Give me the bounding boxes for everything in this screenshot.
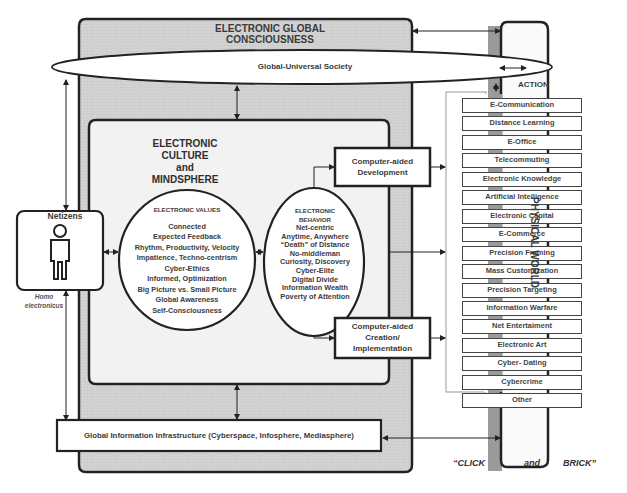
action-item: Cybercrime xyxy=(462,375,582,390)
action-item: Artificial Intelligence xyxy=(462,190,582,205)
values-item: Cyber-Ethics xyxy=(122,264,252,275)
culture-title-line3: and xyxy=(135,162,235,174)
action-item: E-Communication xyxy=(462,98,582,113)
culture-title: ELECTRONIC CULTURE and MINDSPHERE xyxy=(135,138,235,186)
cad-development-line2: Development xyxy=(335,167,430,178)
action-item: Electronic Art xyxy=(462,338,582,353)
cad-creation-line2: Creation/ xyxy=(335,332,430,343)
action-item: Electronic Capital xyxy=(462,209,582,224)
action-item: Telecommuting xyxy=(462,153,582,168)
physical-world-label: PHYSICAL WORLD xyxy=(529,183,540,303)
action-item: Cyber- Dating xyxy=(462,356,582,371)
values-item: Connected xyxy=(122,222,252,233)
and-label: and xyxy=(524,458,540,468)
action-item: Distance Learning xyxy=(462,116,582,131)
values-item: Rhythm, Productivity, Velocity xyxy=(122,243,252,254)
values-title: ELECTRONIC VALUES xyxy=(122,205,252,216)
caption-line2: electronicus xyxy=(18,301,70,310)
caption-line1: Homo xyxy=(18,292,70,301)
action-item: Precision Framing xyxy=(462,246,582,261)
values-item: Big Picture vs. Small Picture xyxy=(122,285,252,296)
outer-title: ELECTRONIC GLOBAL CONSCIOUSNESS xyxy=(180,23,360,45)
values-item: Self-Consciousness xyxy=(122,306,252,317)
action-item: Information Warfare xyxy=(462,301,582,316)
action-item: E-Office xyxy=(462,135,582,150)
electronic-values: ELECTRONIC VALUES Connected Expected Fee… xyxy=(122,205,252,316)
infrastructure-label: Global Information Infrastructure (Cyber… xyxy=(57,431,381,440)
action-item: Precision Targeting xyxy=(462,283,582,298)
electronic-behavior: ELECTRONIC BEHAVIOR Net-centric Anytime,… xyxy=(270,207,360,301)
culture-title-line4: MINDSPHERE xyxy=(135,174,235,186)
click-label: “CLICK xyxy=(453,458,485,468)
culture-title-line1: ELECTRONIC xyxy=(135,138,235,150)
values-item: Impatience, Techno-centrism xyxy=(122,253,252,264)
action-item: Other xyxy=(462,393,582,408)
cad-development-line1: Computer-aided xyxy=(335,156,430,167)
cad-development: Computer-aided Development xyxy=(335,156,430,178)
society-label: Global-Universal Society xyxy=(220,62,390,71)
values-item: Informed, Optimization xyxy=(122,274,252,285)
action-item: E-Commerce xyxy=(462,227,582,242)
cad-creation-line3: Implementation xyxy=(335,343,430,354)
behavior-item: Poverty of Attention xyxy=(270,293,360,302)
culture-title-line2: CULTURE xyxy=(135,150,235,162)
behavior-title-1: ELECTRONIC xyxy=(270,207,360,216)
homo-electronicus-caption: Homo electronicus xyxy=(18,292,70,310)
action-item: Electronic Knowledge xyxy=(462,172,582,187)
netizens-label: Netizens xyxy=(40,211,90,221)
action-label: ACTION xyxy=(518,80,548,89)
brick-label: BRICK” xyxy=(563,458,596,468)
values-item: Global Awareness xyxy=(122,295,252,306)
cad-creation: Computer-aided Creation/ Implementation xyxy=(335,321,430,354)
action-item: Mass Customization xyxy=(462,264,582,279)
action-item: Net Entertaiment xyxy=(462,319,582,334)
values-item: Expected Feedback xyxy=(122,232,252,243)
cad-creation-line1: Computer-aided xyxy=(335,321,430,332)
